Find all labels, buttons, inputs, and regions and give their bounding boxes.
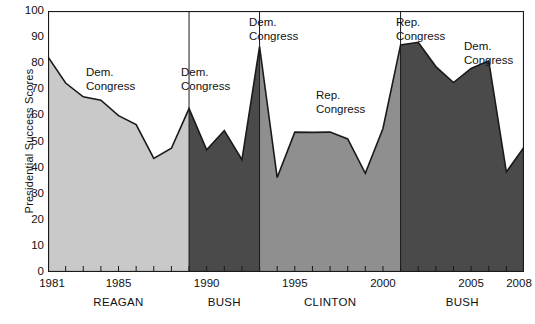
annotation-line1: Dem.	[86, 66, 135, 80]
annotation-line1: Dem.	[181, 66, 230, 80]
annotation-line2: Congress	[396, 30, 445, 44]
annotation-line2: Congress	[464, 54, 513, 68]
annotation-line1: Rep.	[396, 16, 445, 30]
annotation-0: Dem.Congress	[86, 66, 135, 93]
annotation-line2: Congress	[181, 80, 230, 94]
chart-container: Presidential Success Scores 100908070605…	[0, 0, 535, 324]
annotation-line1: Dem.	[464, 40, 513, 54]
annotation-line1: Rep.	[316, 89, 365, 103]
annotation-line2: Congress	[249, 30, 298, 44]
annotation-line2: Congress	[86, 80, 135, 94]
annotation-4: Rep.Congress	[396, 16, 445, 43]
annotation-line1: Dem.	[249, 16, 298, 30]
annotation-5: Dem.Congress	[464, 40, 513, 67]
annotation-3: Rep.Congress	[316, 89, 365, 116]
congress-annotations: Dem.CongressDem.CongressDem.CongressRep.…	[0, 0, 535, 324]
annotation-2: Dem.Congress	[249, 16, 298, 43]
annotation-1: Dem.Congress	[181, 66, 230, 93]
annotation-line2: Congress	[316, 103, 365, 117]
